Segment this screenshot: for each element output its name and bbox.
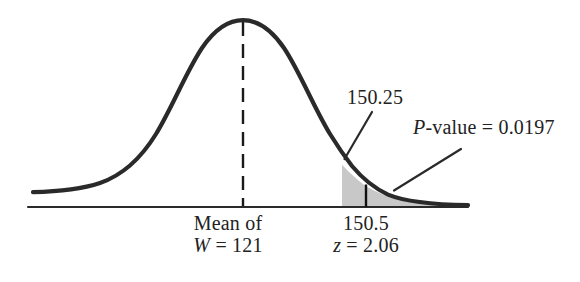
pvalue-symbol: P bbox=[413, 116, 425, 138]
mean-statistic-symbol: W bbox=[193, 234, 210, 256]
axis-label-observed-line2: z = 2.06 bbox=[333, 234, 399, 256]
leader-line-150-25 bbox=[345, 112, 373, 159]
axis-label-observed: 150.5 z = 2.06 bbox=[333, 212, 399, 257]
axis-label-mean-line1: Mean of bbox=[193, 212, 262, 234]
annotation-continuity-point: 150.25 bbox=[347, 86, 403, 108]
distribution-plot bbox=[0, 0, 580, 282]
axis-label-observed-line1: 150.5 bbox=[333, 212, 399, 234]
mean-statistic-value: = 121 bbox=[210, 234, 262, 256]
z-value: = 2.06 bbox=[341, 234, 399, 256]
pvalue-text: -value = 0.0197 bbox=[425, 116, 554, 138]
leader-line-pvalue bbox=[394, 149, 461, 191]
axis-label-mean-line2: W = 121 bbox=[193, 234, 262, 256]
normal-curve-pvalue-figure: 150.25 P-value = 0.0197 Mean of W = 121 … bbox=[0, 0, 580, 282]
z-symbol: z bbox=[333, 234, 341, 256]
axis-label-mean: Mean of W = 121 bbox=[193, 212, 262, 257]
normal-curve bbox=[33, 20, 468, 205]
annotation-pvalue: P-value = 0.0197 bbox=[413, 116, 555, 138]
